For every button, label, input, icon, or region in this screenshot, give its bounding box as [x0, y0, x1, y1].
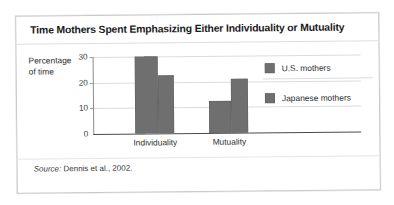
legend-swatch-icon-us-mothers: [265, 63, 275, 73]
y-tick-label-10: 10: [79, 104, 88, 113]
y-axis-title-line2: of time: [29, 66, 91, 77]
bar-individuality-japanese: [158, 75, 175, 133]
legend-label-japanese-mothers: Japanese mothers: [282, 93, 351, 104]
source-keyword: Source:: [34, 164, 62, 173]
bar-individuality-us: [135, 56, 159, 133]
source-citation: Dennis et al., 2002.: [61, 164, 132, 174]
scan-page: Time Mothers Spent Emphasizing Either In…: [0, 0, 394, 205]
legend-item-japanese-mothers: Japanese mothers: [265, 87, 371, 108]
source-divider: [18, 155, 380, 159]
chart-legend: U.S. mothers Japanese mothers: [265, 57, 371, 108]
legend-item-us-mothers: U.S. mothers: [265, 57, 371, 78]
bar-mutuality-us: [209, 101, 231, 133]
figure-frame: Time Mothers Spent Emphasizing Either In…: [15, 12, 381, 193]
bar-mutuality-japanese: [231, 79, 249, 133]
y-tick-label-20: 20: [79, 78, 88, 87]
legend-label-us-mothers: U.S. mothers: [282, 63, 331, 73]
y-axis-line: [93, 57, 95, 135]
x-category-label-individuality: Individuality: [133, 137, 177, 147]
y-tick-label-0: 0: [84, 130, 89, 139]
title-divider: [16, 40, 378, 44]
legend-divider: [263, 77, 373, 79]
legend-swatch-icon-japanese-mothers: [265, 93, 275, 103]
y-tick-label-30: 30: [78, 53, 87, 62]
x-category-label-mutuality: Mutuality: [213, 137, 247, 147]
chart-title: Time Mothers Spent Emphasizing Either In…: [30, 21, 366, 35]
source-note: Source: Dennis et al., 2002.: [34, 164, 133, 174]
